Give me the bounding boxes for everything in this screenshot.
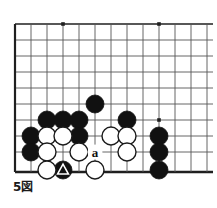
black-stone[interactable]: [70, 111, 88, 129]
black-stone[interactable]: [22, 143, 40, 161]
white-stone[interactable]: [54, 127, 72, 145]
point-label-a[interactable]: a: [92, 145, 99, 160]
black-stone[interactable]: [150, 127, 168, 145]
point-labels-group: a: [88, 145, 103, 160]
white-stone[interactable]: [38, 161, 56, 179]
white-stone[interactable]: [118, 143, 136, 161]
white-stone[interactable]: [70, 143, 88, 161]
figure-caption: 5図: [13, 180, 33, 194]
white-stone[interactable]: [38, 143, 56, 161]
black-stone[interactable]: [54, 161, 72, 179]
black-stone[interactable]: [150, 143, 168, 161]
white-stone[interactable]: [86, 161, 104, 179]
black-stone[interactable]: [150, 161, 168, 179]
black-stone[interactable]: [86, 95, 104, 113]
black-stone[interactable]: [22, 127, 40, 145]
go-board[interactable]: a: [0, 0, 217, 208]
go-diagram-figure: a 5図: [0, 0, 217, 208]
